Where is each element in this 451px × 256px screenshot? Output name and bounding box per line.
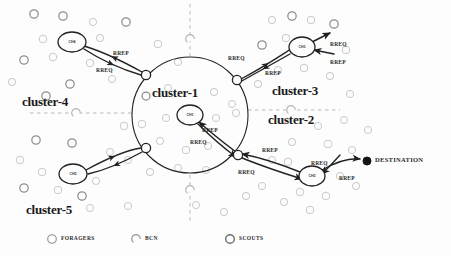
forager-node [32,136,40,144]
forager-node [330,20,338,28]
forager-node [96,34,103,41]
forager-node [314,122,321,129]
destination-node [363,157,371,165]
forager-node [174,164,181,171]
forager-node [78,192,86,200]
forager-node [68,139,76,147]
forager-node [39,35,47,43]
legend-bcn-text: BCN [145,236,158,242]
forager-node [324,140,332,148]
edge-gwsw-to-ch5-arrowhead [112,161,121,169]
forager-node [284,158,292,166]
forager-node [122,18,130,26]
packet-label-rreq-p10: RREQ [238,170,255,176]
legend-foragers-marker [48,235,57,244]
packet-label-rrep-p1: RREP [113,51,129,57]
forager-node [282,34,290,42]
forager-node [228,100,235,107]
cluster-head-group [58,32,325,186]
forager-node [306,206,314,214]
forager-node [288,138,295,145]
forager-node [86,204,93,211]
forager-node [120,122,128,130]
packet-label-rreq-p11: RREQ [311,161,328,167]
forager-node [258,41,266,49]
gw-southeast [233,150,242,159]
forager-node [106,148,113,155]
forager-node [364,126,371,133]
forager-node [30,10,38,18]
forager-node [59,12,67,20]
legend-scouts-text: SCOUTS [239,236,263,242]
forager-node [182,146,190,154]
forager-node [212,114,219,121]
packet-label-rreq-p8: RREQ [190,140,207,146]
forager-node [352,182,359,189]
forager-node [232,109,239,116]
forager-node [138,120,146,128]
cluster-label-cluster-3: cluster-3 [272,84,318,97]
forager-node [86,59,94,67]
legend-scouts-marker [226,235,235,244]
diagram-canvas [0,0,451,256]
forager-node [280,198,287,205]
destination-label: DESTINATION [375,157,423,164]
forager-node [156,137,163,144]
forager-node [20,184,28,192]
packet-label-rrep-p7: RREP [202,128,218,134]
forager-node [154,40,162,48]
forager-node [220,208,227,215]
packet-label-rrep-p6: RREP [330,60,346,66]
forager-node [16,156,24,164]
forager-node [38,168,46,176]
edge-ch3-in-rrep [314,50,334,54]
forager-node [108,75,115,82]
forager-node [258,182,265,189]
forager-node [326,72,333,79]
forager-node [288,12,296,20]
packet-label-rreq-p3: RREQ [228,56,245,62]
forager-node [162,114,169,121]
forager-node [348,146,355,153]
forager-node [174,58,181,65]
forager-node [66,80,74,88]
destination-marker [363,157,371,165]
gw-northwest [141,70,150,79]
bcn-left [72,109,81,117]
forager-node [124,202,131,209]
forager-node [89,18,96,25]
cluster-head-label-ch2: CH2 [308,174,315,178]
cluster-label-cluster-2: cluster-2 [268,113,314,126]
gw-southwest [141,143,150,152]
cluster-head-label-ch4: CH4 [68,40,75,44]
forager-node [322,192,330,200]
forager-node [254,80,261,87]
packet-label-rrep-p9: RREP [262,148,278,154]
forager-node [49,53,57,61]
forager-node [20,56,28,64]
cluster-label-cluster-5: cluster-5 [26,203,72,216]
forager-node [300,64,308,72]
forager-node [268,16,275,23]
forager-node [146,168,153,175]
cluster-head-label-ch3: CH3 [298,45,305,49]
forager-node [296,188,304,196]
forager-node [192,201,199,208]
cluster-label-cluster-4: cluster-4 [22,95,68,108]
legend-bcn-marker [132,235,141,243]
packet-label-rrep-p12: RREP [339,176,355,182]
gw-northeast [232,75,241,84]
forager-node [54,186,62,194]
forager-node [346,90,353,97]
forager-node [307,16,315,24]
cluster-head-label-ch1: CH1 [186,113,193,117]
legend-foragers-text: FORAGERS [61,236,95,242]
packet-label-rreq-p5: RREQ [330,42,347,48]
cluster-label-cluster-1: cluster-1 [152,86,198,99]
forager-node [8,78,15,85]
network-diagram: cluster-1cluster-2cluster-3cluster-4clus… [0,0,451,256]
forager-node [92,177,99,184]
cluster-head-label-ch5: CH5 [69,172,76,176]
edge-ch3-out-rreq [312,33,330,42]
forager-node [242,192,249,199]
